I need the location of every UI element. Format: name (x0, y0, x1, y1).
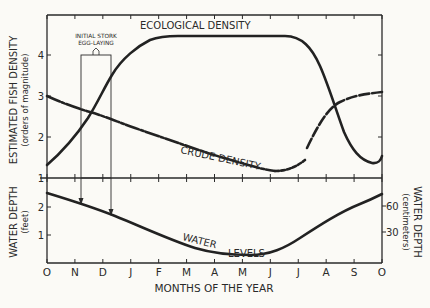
svg-text:WATER DEPTH: WATER DEPTH (412, 186, 423, 258)
month-label: J (128, 266, 132, 278)
ytick-4: 4 (38, 50, 44, 61)
month-label: F (156, 266, 162, 278)
svg-text:(feet): (feet) (20, 210, 30, 233)
y-tick-labels-right: 60 30 (386, 201, 399, 238)
svg-text:(centimeters): (centimeters) (401, 193, 411, 251)
series-crude-density (47, 96, 305, 171)
month-label: A (323, 266, 331, 278)
ecological-density-label: ECOLOGICAL DENSITY (140, 20, 251, 31)
ytick-30cm: 30 (386, 227, 399, 238)
month-label: S (351, 266, 358, 278)
month-label: O (43, 266, 51, 278)
levels-label: LEVELS (228, 248, 265, 259)
y-axis-title-lower: WATER DEPTH (feet) (8, 186, 30, 258)
y-ticks (47, 55, 386, 235)
ytick-3: 3 (38, 91, 44, 102)
ytick-60cm: 60 (386, 201, 399, 212)
x-ticks (47, 15, 382, 263)
svg-text:(orders of magnitude): (orders of magnitude) (20, 53, 30, 146)
month-label: M (182, 266, 191, 278)
month-label: D (99, 266, 107, 278)
month-label: M (238, 266, 247, 278)
y-axis-title-upper: ESTIMATED FISH DENSITY (orders of magnit… (8, 35, 30, 164)
y-tick-labels-lower: 2 1 (38, 202, 44, 241)
stork-egg-laying-annotation (79, 48, 114, 216)
ytick-2: 2 (38, 132, 44, 143)
x-axis-title: MONTHS OF THE YEAR (155, 282, 274, 294)
stork-label-line2: EGG-LAYING (78, 40, 114, 46)
month-label: J (296, 266, 300, 278)
plot-frame (40, 15, 382, 263)
month-label: N (71, 266, 79, 278)
water-label: WATER (182, 231, 218, 250)
svg-text:WATER DEPTH: WATER DEPTH (8, 186, 19, 258)
crude-density-label: CRUDE DENSITY (180, 144, 263, 172)
ytick-1: 1 (38, 173, 44, 184)
y-axis-title-right: WATER DEPTH (centimeters) (401, 186, 423, 258)
ytick-2ft: 2 (38, 202, 44, 213)
svg-text:ESTIMATED FISH DENSITY: ESTIMATED FISH DENSITY (8, 35, 19, 164)
stork-label-line1: INITIAL STORK (75, 33, 117, 39)
y-tick-labels-upper: 4 3 2 1 (38, 50, 44, 184)
month-label: A (211, 266, 219, 278)
ytick-1ft: 1 (38, 230, 44, 241)
chart: 4 3 2 1 2 1 60 30 ESTIMATED FISH DENSITY… (0, 0, 430, 308)
month-label: O (378, 266, 386, 278)
x-tick-labels: ONDJFMAMJJASO (43, 266, 386, 278)
month-label: J (268, 266, 272, 278)
